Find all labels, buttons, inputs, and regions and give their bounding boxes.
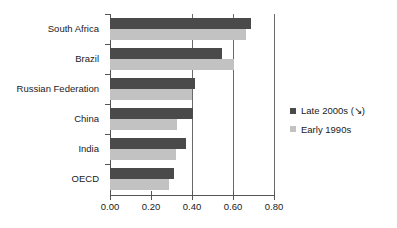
legend: Late 2000s (↘) Early 1990s	[290, 106, 394, 143]
bar-oecd-late-2000s	[110, 168, 174, 179]
category-label-south-africa: South Africa	[0, 14, 104, 44]
category-axis-labels: South Africa Brazil Russian Federation C…	[0, 14, 104, 194]
bar-india-late-2000s	[110, 138, 186, 149]
legend-label-late-2000s: Late 2000s (↘)	[301, 106, 365, 116]
bar-group-oecd	[110, 164, 274, 194]
legend-item-early-1990s: Early 1990s	[290, 125, 394, 135]
x-tick-0.80	[274, 191, 275, 200]
legend-label-early-1990s: Early 1990s	[301, 125, 351, 135]
legend-swatch-icon-early-1990s	[290, 126, 296, 132]
plot-area	[110, 14, 274, 194]
bar-russian-federation-early-1990s	[110, 89, 192, 100]
bar-chart-figure: South Africa Brazil Russian Federation C…	[0, 0, 397, 228]
bar-brazil-late-2000s	[110, 48, 222, 59]
bar-india-early-1990s	[110, 149, 176, 160]
bar-china-late-2000s	[110, 108, 193, 119]
bar-group-south-africa	[110, 14, 274, 44]
bar-south-africa-early-1990s	[110, 29, 246, 40]
bar-group-india	[110, 134, 274, 164]
category-label-russian-federation: Russian Federation	[0, 74, 104, 104]
bar-russian-federation-late-2000s	[110, 78, 195, 89]
category-label-china: China	[0, 104, 104, 134]
category-label-india: India	[0, 134, 104, 164]
category-label-oecd: OECD	[0, 164, 104, 194]
bar-group-russian-federation	[110, 74, 274, 104]
bar-group-brazil	[110, 44, 274, 74]
bar-group-china	[110, 104, 274, 134]
bar-brazil-early-1990s	[110, 59, 234, 70]
legend-item-late-2000s: Late 2000s (↘)	[290, 106, 394, 116]
gridline-0.80	[274, 14, 275, 195]
bar-oecd-early-1990s	[110, 179, 169, 190]
bar-china-early-1990s	[110, 119, 177, 130]
bar-south-africa-late-2000s	[110, 18, 251, 29]
legend-swatch-icon-late-2000s	[290, 108, 296, 114]
x-tick-label-0.80: 0.80	[244, 202, 304, 212]
category-label-brazil: Brazil	[0, 44, 104, 74]
